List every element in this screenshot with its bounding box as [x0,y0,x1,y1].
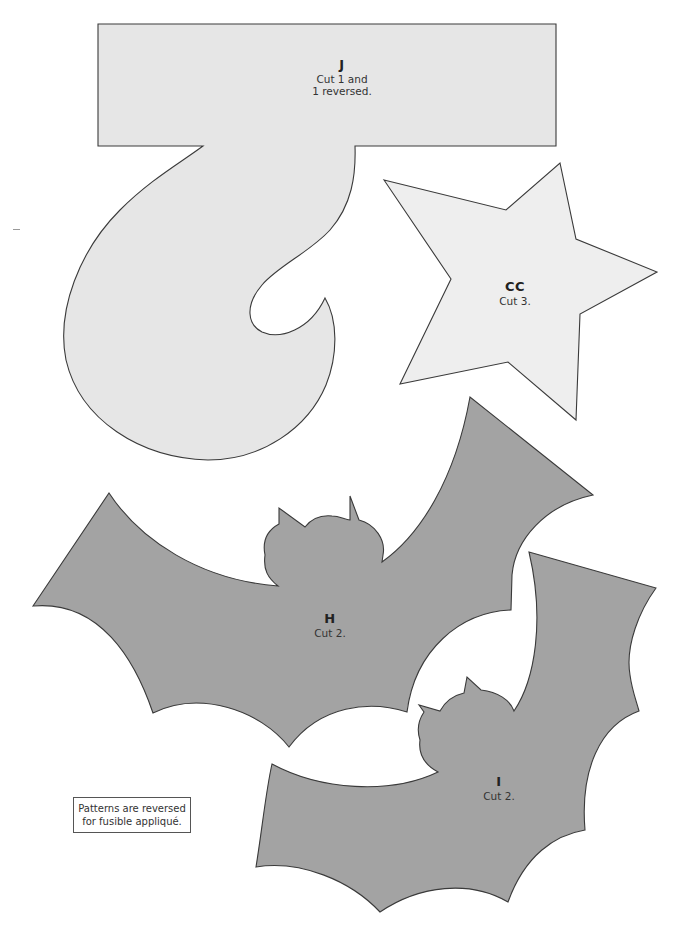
registration-mark [13,229,20,230]
note-line: Patterns are reversed [74,802,190,815]
piece-label-cc: CC Cut 3. [480,280,550,307]
piece-instruction: Cut 3. [480,295,550,307]
note-line: for fusible appliqué. [74,815,190,828]
pattern-canvas [0,0,679,927]
piece-code: J [287,58,397,73]
reversed-patterns-note: Patterns are reversed for fusible appliq… [73,797,191,833]
piece-instruction: 1 reversed. [287,85,397,97]
piece-code: H [300,612,360,627]
piece-code: I [469,775,529,790]
pattern-piece-h-bat [33,397,593,747]
piece-instruction: Cut 2. [300,627,360,639]
piece-label-h: H Cut 2. [300,612,360,639]
piece-label-j: J Cut 1 and 1 reversed. [287,58,397,97]
piece-instruction: Cut 2. [469,790,529,802]
piece-code: CC [480,280,550,295]
piece-label-i: I Cut 2. [469,775,529,802]
piece-instruction: Cut 1 and [287,73,397,85]
